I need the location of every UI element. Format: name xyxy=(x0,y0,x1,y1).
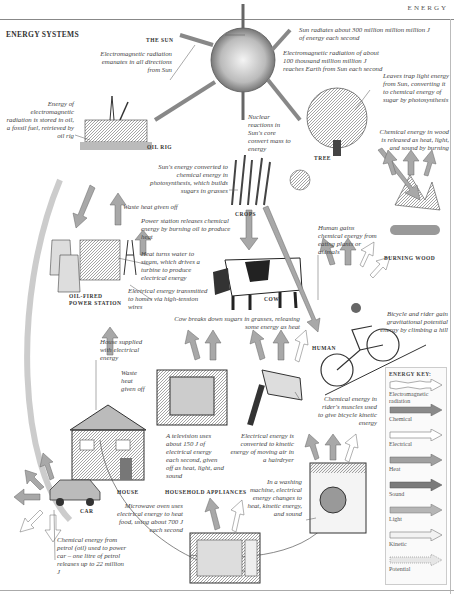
note-power-release: Power station releases chemical energy b… xyxy=(141,217,233,241)
note-cow-breaks: Cow breaks down sugars in grasses, relea… xyxy=(165,315,300,331)
burning-wood-illustration xyxy=(390,175,440,235)
key-item-light: Light xyxy=(389,504,443,529)
label-power-station-line2: POWER STATION xyxy=(69,300,122,306)
tree-illustration xyxy=(307,88,367,156)
label-cow: COW xyxy=(264,296,279,302)
label-crops: CROPS xyxy=(235,211,256,217)
note-wood-burn: Chemical energy in wood is released as h… xyxy=(375,128,449,152)
label-sun: THE SUN xyxy=(146,37,174,43)
power-station-illustration xyxy=(50,240,136,292)
note-sun-em: Electromagnetic radiation emanates in al… xyxy=(100,50,172,74)
note-car-petrol: Chemical energy from petrol (oil) used t… xyxy=(57,536,127,576)
sun-illustration xyxy=(155,4,300,120)
label-tree: TREE xyxy=(314,155,331,161)
heat-arrow-icon xyxy=(389,454,443,466)
key-item-heat: Heat xyxy=(389,454,443,479)
label-house: HOUSE xyxy=(117,489,139,495)
note-waste-heat-ps: Waste heat given off xyxy=(123,203,213,211)
chemical-arrow-icon xyxy=(389,404,443,416)
key-item-potential: Potential xyxy=(389,554,443,579)
sound-arrow-icon xyxy=(389,479,443,491)
note-steam: Heat turns water to steam, which drives … xyxy=(141,250,211,282)
kinetic-arrow-icon xyxy=(389,529,443,541)
note-sun-radiates: Sun radiates about 300 million million m… xyxy=(299,26,434,42)
wavy-arrow-icon xyxy=(389,379,443,391)
label-burning-wood: BURNING WOOD xyxy=(384,255,435,261)
note-transmitted: Electrical energy transmitted to homes v… xyxy=(128,287,208,311)
note-leaves: Leaves trap light energy from Sun, conve… xyxy=(383,72,449,104)
note-waste-heat-house: Waste heat given off xyxy=(121,369,145,393)
note-bicycle-potential: Bicycle and rider gain gravitational pot… xyxy=(380,310,448,334)
light-arrow-icon xyxy=(389,504,443,516)
note-washing: In a washing machine, electrical energy … xyxy=(245,478,302,518)
key-item-kinetic: Kinetic xyxy=(389,529,443,554)
note-human-gains: Human gains chemical energy from eating … xyxy=(318,224,380,256)
potential-arrow-icon xyxy=(389,554,443,566)
key-item-electromagnetic: Electromagnetic radiation xyxy=(389,379,443,404)
energy-key: ENERGY KEY: Electromagnetic radiation Ch… xyxy=(385,367,447,585)
note-earth-receives: Electromagnetic radiation of about 100 t… xyxy=(283,49,383,73)
note-nuclear: Nuclear reactions in Sun's core convert … xyxy=(248,113,296,153)
hairdryer-illustration xyxy=(250,370,302,425)
note-house-supplied: House supplied with electrical energy xyxy=(100,338,152,362)
note-television: A television uses about 150 J of electri… xyxy=(166,432,224,480)
house-illustration xyxy=(70,405,146,480)
note-microwave: Microwave oven uses electrical energy to… xyxy=(115,502,183,534)
key-item-chemical: Chemical xyxy=(389,404,443,429)
note-photosynthesis: Sun's energy converted to chemical energ… xyxy=(140,163,228,195)
note-hairdryer: Electrical energy is converted to kineti… xyxy=(228,432,294,464)
electrical-arrow-icon xyxy=(389,429,443,441)
label-human: HUMAN xyxy=(312,345,336,351)
washing-machine-illustration xyxy=(310,463,366,533)
television-illustration xyxy=(157,370,227,425)
label-oil-rig: OIL RIG xyxy=(147,144,172,150)
crops-illustration xyxy=(232,155,310,205)
energy-systems-page: ENERGY ENERGY SYSTEMS xyxy=(0,0,454,594)
key-item-electrical: Electrical xyxy=(389,429,443,454)
oil-rig-illustration xyxy=(80,96,152,150)
microwave-illustration xyxy=(190,533,260,583)
key-item-sound: Sound xyxy=(389,479,443,504)
label-household-appliances: HOUSEHOLD APPLIANCES xyxy=(165,489,247,495)
car-illustration xyxy=(50,480,100,506)
note-oil-stored: Energy of electromagnetic radiation is s… xyxy=(4,100,74,140)
note-rider-muscles: Chemical energy in rider's muscles used … xyxy=(315,395,377,427)
label-power-station-line1: OIL-FIRED xyxy=(69,293,103,299)
energy-key-title: ENERGY KEY: xyxy=(389,371,443,377)
label-car: CAR xyxy=(80,508,93,514)
